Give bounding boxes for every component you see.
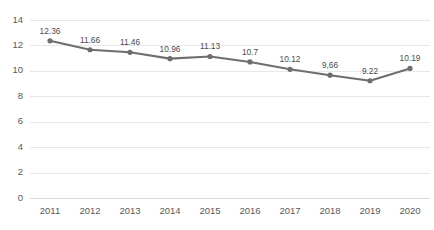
data-point-marker (207, 54, 212, 59)
data-point-marker (87, 47, 92, 52)
y-axis-tick-label: 10 (12, 64, 23, 75)
data-point-label: 11.46 (120, 37, 141, 47)
data-point-marker (367, 78, 372, 83)
x-axis-tick-label: 2013 (119, 205, 140, 216)
data-point-marker (287, 67, 292, 72)
x-axis-tick-labels: 2011201220132014201520162017201820192020 (40, 205, 421, 216)
series-polyline (50, 41, 410, 81)
line-chart: 02468101214 2011201220132014201520162017… (0, 0, 434, 230)
x-axis-tick-label: 2011 (40, 205, 60, 216)
data-point-label: 11.13 (200, 41, 221, 51)
data-point-marker (167, 56, 172, 61)
x-axis-tick-label: 2020 (399, 205, 420, 216)
data-point-markers (47, 38, 412, 83)
y-axis-tick-labels: 02468101214 (12, 14, 23, 203)
data-point-label: 10.19 (400, 53, 421, 63)
data-point-marker (247, 59, 252, 64)
data-point-marker (407, 66, 412, 71)
data-point-label: 9.22 (362, 66, 379, 76)
data-point-label: 9,66 (322, 60, 339, 70)
data-point-marker (127, 50, 132, 55)
series-line (50, 41, 410, 81)
x-axis-tick-label: 2012 (79, 205, 100, 216)
y-axis-tick-label: 0 (18, 192, 23, 203)
y-axis-tick-label: 4 (18, 141, 23, 152)
y-axis-tick-label: 6 (18, 115, 23, 126)
data-point-label: 11.66 (80, 35, 101, 45)
x-axis-tick-label: 2016 (239, 205, 260, 216)
x-axis-tick-label: 2017 (279, 205, 300, 216)
x-axis-tick-label: 2015 (199, 205, 220, 216)
data-point-label: 10.7 (242, 47, 259, 57)
chart-canvas: 02468101214 2011201220132014201520162017… (0, 0, 434, 230)
x-axis-tick-label: 2014 (159, 205, 180, 216)
data-point-marker (327, 73, 332, 78)
data-point-label: 10.96 (160, 44, 181, 54)
y-axis-tick-label: 14 (12, 14, 23, 25)
y-axis-tick-label: 2 (18, 166, 23, 177)
y-axis-tick-label: 8 (18, 90, 23, 101)
x-axis-tick-label: 2018 (319, 205, 340, 216)
data-point-label: 12.36 (40, 26, 61, 36)
data-point-label: 10.12 (280, 54, 301, 64)
data-point-marker (47, 38, 52, 43)
y-axis-tick-label: 12 (12, 39, 23, 50)
x-axis-tick-label: 2019 (359, 205, 380, 216)
